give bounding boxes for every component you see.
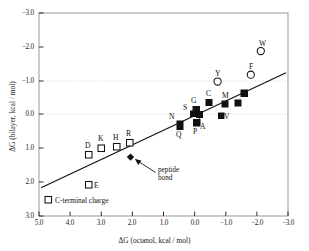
peptide-bond-annotation-line2: bond <box>158 174 179 182</box>
point-label-Y: Y <box>215 70 220 78</box>
x-tick-label-4: 1.0 <box>150 219 178 227</box>
x-tick-label-6: −1.0 <box>212 219 240 227</box>
point-Y <box>214 78 221 85</box>
point-label-S: S <box>183 104 187 112</box>
x-axis-title: ΔG (octanol, kcal / mol) <box>0 236 309 245</box>
point-W <box>257 47 264 54</box>
x-tick-label-2: 3.0 <box>87 219 115 227</box>
point-label-F: F <box>249 63 253 71</box>
point-label-W: W <box>259 40 266 48</box>
y-tick-label-1: −2.0 <box>8 43 34 51</box>
point-label-V: V <box>224 113 229 121</box>
point-label-R: R <box>126 130 131 138</box>
chart-figure: −3.0 −2.0 −1.0 0.0 1.0 2.0 3.0 5.0 4.0 3… <box>0 0 309 251</box>
point-D <box>86 152 93 159</box>
point-K <box>98 145 105 152</box>
point-label-H: H <box>113 134 118 142</box>
point-L <box>241 90 249 98</box>
point-label-P: P <box>193 128 197 136</box>
x-tick-label-0: 5.0 <box>25 219 53 227</box>
peptide-bond-annotation-line1: peptide <box>158 166 179 174</box>
point-label-M: M <box>222 92 229 100</box>
point-label-D: D <box>85 142 90 150</box>
point-M <box>222 101 229 108</box>
peptide-bond-annotation: peptide bond <box>158 166 179 182</box>
y-tick-label-0: −3.0 <box>8 9 34 17</box>
point-C <box>206 99 213 106</box>
legend-label: C-terminal charge <box>55 196 108 205</box>
x-tick-label-7: −2.0 <box>243 219 271 227</box>
legend-marker-square <box>45 197 52 204</box>
point-R <box>127 140 134 147</box>
point-label-Q: Q <box>176 131 181 139</box>
point-H <box>114 144 121 151</box>
scatter-plot-canvas <box>0 0 309 251</box>
x-tick-label-3: 2.0 <box>118 219 146 227</box>
x-tick-label-5: 0.0 <box>181 219 209 227</box>
point-label-E: E <box>94 182 99 190</box>
point-I <box>235 100 242 107</box>
point-label-K: K <box>98 135 103 143</box>
y-axis-title: ΔG (bilayer, kcal / mol) <box>8 57 17 177</box>
x-tick-label-1: 4.0 <box>56 219 84 227</box>
point-label-A: A <box>200 123 205 131</box>
point-label-G: G <box>191 97 196 105</box>
point-E <box>86 182 93 189</box>
point-label-N: N <box>169 113 174 121</box>
x-tick-label-8: −3.0 <box>274 219 302 227</box>
point-F <box>247 71 254 78</box>
y-tick-label-5: 2.0 <box>8 178 34 186</box>
point-N-Q <box>177 121 184 131</box>
point-label-C: C <box>206 90 211 98</box>
plot-frame <box>39 13 288 216</box>
